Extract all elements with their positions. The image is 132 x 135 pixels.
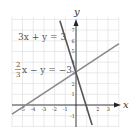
y-axis-label: y <box>73 6 80 17</box>
svg-text:5: 5 <box>72 48 75 54</box>
svg-text:-1: -1 <box>70 113 75 119</box>
eq2-label: 2 3 x − y = −3 <box>15 61 72 79</box>
svg-text:3: 3 <box>107 106 110 112</box>
svg-text:2: 2 <box>72 81 75 87</box>
svg-text:6: 6 <box>72 38 75 44</box>
x-axis-label: x <box>123 99 129 110</box>
svg-text:2: 2 <box>96 106 99 112</box>
svg-text:3: 3 <box>16 71 20 79</box>
x-tick-labels: -5 -4 -3 -2 -1 1 2 3 <box>20 106 110 112</box>
svg-text:-4: -4 <box>31 106 36 112</box>
chart-canvas: x y -5 -4 -3 -2 -1 1 2 3 -1 1 2 3 4 5 6 … <box>0 0 132 135</box>
svg-text:1: 1 <box>72 91 75 97</box>
svg-text:2: 2 <box>16 61 20 69</box>
eq1-label: 3x + y = 3 <box>18 32 66 42</box>
y-axis-arrow-icon <box>74 19 79 26</box>
svg-text:x − y = −3: x − y = −3 <box>22 65 72 75</box>
svg-text:-3: -3 <box>41 106 46 112</box>
svg-text:-2: -2 <box>52 106 57 112</box>
svg-text:7: 7 <box>72 27 75 33</box>
svg-text:-1: -1 <box>63 106 68 112</box>
x-axis-arrow-icon <box>114 103 121 108</box>
